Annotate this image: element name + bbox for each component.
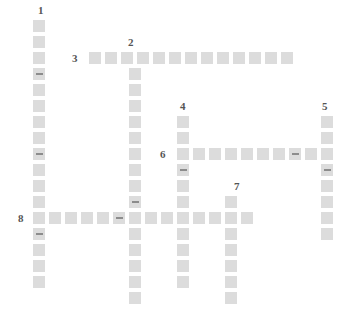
crossword-cell[interactable] [176, 227, 190, 241]
crossword-cell[interactable] [32, 243, 46, 257]
crossword-cell[interactable] [176, 147, 190, 161]
crossword-cell[interactable] [216, 51, 230, 65]
crossword-cell[interactable] [128, 275, 142, 289]
crossword-cell[interactable] [208, 211, 222, 225]
crossword-cell[interactable] [224, 195, 238, 209]
crossword-cell[interactable] [232, 51, 246, 65]
crossword-cell[interactable] [32, 51, 46, 65]
crossword-cell[interactable] [192, 211, 206, 225]
clue-number-2: 2 [128, 37, 134, 48]
crossword-cell[interactable] [128, 227, 142, 241]
crossword-cell[interactable] [88, 51, 102, 65]
crossword-cell[interactable] [240, 147, 254, 161]
crossword-cell[interactable] [128, 179, 142, 193]
crossword-cell[interactable] [256, 147, 270, 161]
crossword-cell[interactable] [160, 211, 174, 225]
crossword-cell[interactable] [176, 259, 190, 273]
crossword-grid: 12345678 [0, 0, 348, 328]
crossword-cell[interactable] [224, 227, 238, 241]
crossword-cell[interactable] [224, 259, 238, 273]
crossword-cell[interactable] [176, 163, 190, 177]
crossword-cell[interactable] [208, 147, 222, 161]
crossword-cell[interactable] [32, 147, 46, 161]
crossword-cell[interactable] [128, 131, 142, 145]
crossword-cell[interactable] [240, 211, 254, 225]
crossword-cell[interactable] [104, 51, 118, 65]
crossword-cell[interactable] [192, 147, 206, 161]
crossword-cell[interactable] [32, 259, 46, 273]
crossword-cell[interactable] [320, 195, 334, 209]
crossword-cell[interactable] [320, 227, 334, 241]
crossword-cell[interactable] [32, 179, 46, 193]
crossword-cell[interactable] [288, 147, 302, 161]
crossword-cell[interactable] [176, 243, 190, 257]
crossword-cell[interactable] [304, 147, 318, 161]
crossword-cell[interactable] [184, 51, 198, 65]
crossword-cell[interactable] [64, 211, 78, 225]
crossword-cell[interactable] [48, 211, 62, 225]
clue-number-3: 3 [72, 53, 78, 64]
crossword-cell[interactable] [128, 163, 142, 177]
crossword-cell[interactable] [80, 211, 94, 225]
clue-number-4: 4 [180, 101, 186, 112]
crossword-cell[interactable] [32, 99, 46, 113]
crossword-cell[interactable] [176, 131, 190, 145]
crossword-cell[interactable] [128, 211, 142, 225]
crossword-cell[interactable] [152, 51, 166, 65]
crossword-cell[interactable] [224, 275, 238, 289]
clue-number-7: 7 [234, 181, 240, 192]
crossword-cell[interactable] [32, 131, 46, 145]
crossword-cell[interactable] [128, 83, 142, 97]
clue-number-8: 8 [18, 213, 24, 224]
crossword-cell[interactable] [32, 19, 46, 33]
crossword-cell[interactable] [136, 51, 150, 65]
crossword-cell[interactable] [200, 51, 214, 65]
crossword-cell[interactable] [224, 243, 238, 257]
crossword-cell[interactable] [128, 115, 142, 129]
crossword-cell[interactable] [176, 275, 190, 289]
clue-number-6: 6 [160, 149, 166, 160]
crossword-cell[interactable] [320, 211, 334, 225]
crossword-cell[interactable] [176, 179, 190, 193]
crossword-cell[interactable] [128, 259, 142, 273]
crossword-cell[interactable] [32, 275, 46, 289]
crossword-cell[interactable] [176, 115, 190, 129]
crossword-cell[interactable] [176, 211, 190, 225]
crossword-cell[interactable] [272, 147, 286, 161]
crossword-cell[interactable] [128, 243, 142, 257]
crossword-cell[interactable] [32, 35, 46, 49]
crossword-cell[interactable] [112, 211, 126, 225]
crossword-cell[interactable] [264, 51, 278, 65]
crossword-cell[interactable] [128, 67, 142, 81]
crossword-cell[interactable] [32, 163, 46, 177]
crossword-cell[interactable] [128, 195, 142, 209]
crossword-cell[interactable] [176, 195, 190, 209]
crossword-cell[interactable] [320, 147, 334, 161]
crossword-cell[interactable] [144, 211, 158, 225]
clue-number-1: 1 [38, 5, 44, 16]
crossword-cell[interactable] [224, 291, 238, 305]
crossword-cell[interactable] [320, 179, 334, 193]
crossword-cell[interactable] [32, 195, 46, 209]
crossword-cell[interactable] [120, 51, 134, 65]
crossword-cell[interactable] [320, 131, 334, 145]
crossword-cell[interactable] [224, 147, 238, 161]
crossword-cell[interactable] [128, 99, 142, 113]
crossword-cell[interactable] [224, 211, 238, 225]
crossword-cell[interactable] [128, 291, 142, 305]
crossword-cell[interactable] [320, 163, 334, 177]
crossword-cell[interactable] [320, 115, 334, 129]
crossword-cell[interactable] [96, 211, 110, 225]
crossword-cell[interactable] [248, 51, 262, 65]
crossword-cell[interactable] [32, 227, 46, 241]
crossword-cell[interactable] [128, 147, 142, 161]
clue-number-5: 5 [322, 101, 328, 112]
crossword-cell[interactable] [168, 51, 182, 65]
crossword-cell[interactable] [32, 83, 46, 97]
crossword-cell[interactable] [32, 211, 46, 225]
crossword-cell[interactable] [32, 115, 46, 129]
crossword-cell[interactable] [280, 51, 294, 65]
crossword-cell[interactable] [32, 67, 46, 81]
